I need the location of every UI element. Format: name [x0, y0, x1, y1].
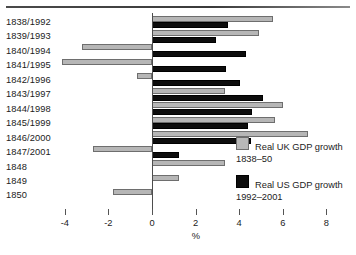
x-axis-tick-label: -4	[52, 218, 78, 228]
x-axis-tick-label: 8	[313, 218, 339, 228]
x-axis-tick	[108, 209, 109, 215]
x-axis-tick-label: 4	[226, 218, 252, 228]
x-axis-tick-label: 0	[139, 218, 165, 228]
legend-item-uk: Real UK GDP growth 1838–50	[236, 136, 352, 165]
x-axis-tick	[196, 209, 197, 215]
legend-label-us-line2: 1992–2001	[236, 192, 352, 203]
x-axis-tick	[65, 209, 66, 215]
legend-swatch-uk	[236, 137, 249, 150]
legend-swatch-us	[236, 175, 249, 188]
x-axis-tick-label: -2	[95, 218, 121, 228]
legend-label-uk: Real UK GDP growth 1838–50	[236, 142, 352, 165]
legend-label-uk-line2: 1838–50	[236, 154, 352, 165]
x-axis-tick-label: 2	[183, 218, 209, 228]
legend-label-uk-line1: Real UK GDP growth	[255, 142, 343, 152]
legend-item-us: Real US GDP growth 1992–2001	[236, 174, 352, 203]
legend-label-us-line1: Real US GDP growth	[255, 180, 343, 190]
chart-legend: Real UK GDP growth 1838–50 Real US GDP g…	[236, 136, 352, 213]
x-axis-title: %	[183, 231, 209, 241]
x-axis-tick	[152, 209, 153, 215]
legend-label-us: Real US GDP growth 1992–2001	[236, 180, 352, 203]
x-axis: -4-202468	[0, 0, 356, 255]
chart-figure: 1838/19921839/19931840/19941841/19951842…	[0, 0, 356, 255]
x-axis-tick-label: 6	[270, 218, 296, 228]
